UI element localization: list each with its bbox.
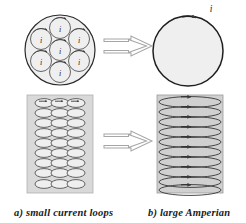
loop-current-label: i [59, 69, 61, 78]
equivalence-arrow-bottom [104, 131, 152, 151]
current-loop: i [50, 17, 71, 38]
physics-figure-amperian-loops: i i i i i i [0, 0, 246, 223]
current-loop: i [31, 28, 52, 49]
loop-current-label: i [40, 36, 42, 45]
panel-large-amperian-cross-section: i [153, 4, 223, 86]
current-loop: i [69, 28, 90, 49]
caption-a: a) small current loops [14, 207, 113, 218]
current-loop: i [31, 50, 52, 71]
loop-current-label: i [40, 58, 42, 67]
loop-current-label: i [59, 25, 61, 34]
panel-small-loops-side-view [27, 95, 93, 193]
loop-current-label: i [59, 47, 61, 56]
equivalence-arrow-top [104, 36, 152, 56]
panel-large-amperian-side-view [157, 95, 223, 195]
current-loop: i [50, 61, 71, 82]
panel-small-loops-cross-section: i i i i i i [25, 15, 95, 85]
loop-current-label: i [78, 36, 80, 45]
caption-b: b) large Amperian [148, 207, 230, 218]
amperian-loop-circle [153, 16, 223, 86]
small-loop-grid [35, 99, 85, 189]
amperian-current-label: i [210, 4, 213, 14]
loop-current-label: i [78, 58, 80, 67]
current-loop: i [50, 39, 71, 60]
current-loop: i [69, 50, 90, 71]
